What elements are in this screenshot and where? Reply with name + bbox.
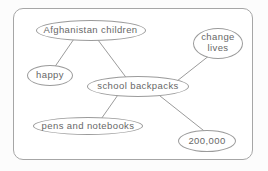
nodes-layer: Afghanistan childrenchange liveshappysch…	[0, 0, 268, 171]
diagram-stage: Afghanistan childrenchange liveshappysch…	[0, 0, 268, 171]
node-happy: happy	[27, 65, 73, 86]
node-200000: 200,000	[178, 130, 236, 152]
node-school-backpacks: school backpacks	[87, 76, 189, 97]
node-pens-and-notebooks: pens and notebooks	[33, 117, 143, 135]
node-afghanistan-children: Afghanistan children	[36, 20, 146, 41]
node-label: happy	[34, 70, 66, 81]
node-label: change lives	[194, 32, 242, 54]
node-label: 200,000	[186, 136, 227, 147]
node-label: pens and notebooks	[40, 121, 137, 132]
node-label: school backpacks	[95, 81, 180, 92]
node-label: Afghanistan children	[41, 25, 139, 36]
node-change-lives: change lives	[193, 28, 243, 59]
